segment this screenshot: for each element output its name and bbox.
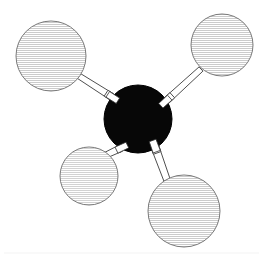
atom-top-right[interactable]: [191, 14, 253, 76]
atom-bottom-right-sphere[interactable]: [148, 175, 220, 247]
atom-top-left-sphere[interactable]: [16, 21, 86, 91]
atom-bottom-right[interactable]: [148, 175, 220, 247]
atom-top-left[interactable]: [16, 21, 86, 91]
molecule-canvas: [0, 0, 263, 258]
atom-top-right-sphere[interactable]: [191, 14, 253, 76]
atom-bottom-left[interactable]: [60, 147, 118, 205]
molecule-figure: Ball-and-stick molecular model Tetrahedr…: [0, 0, 263, 258]
atom-bottom-left-sphere[interactable]: [60, 147, 118, 205]
